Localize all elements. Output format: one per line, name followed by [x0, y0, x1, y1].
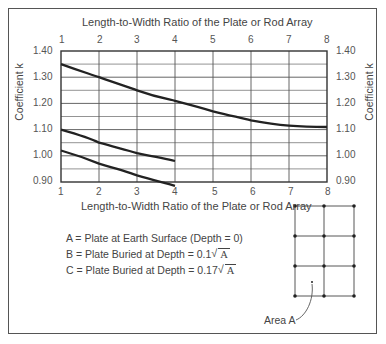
bottom-x-tick: 3 [134, 186, 140, 197]
bottom-x-tick: 2 [96, 186, 102, 197]
sqrt-symbol: A [211, 248, 230, 260]
curve-a [61, 64, 327, 127]
legend-c-text: C = Plate Buried at Depth = 0.17 [66, 264, 218, 276]
bottom-x-tick: 4 [172, 186, 178, 197]
bottom-axis-title: Length-to-Width Ratio of the Plate or Ro… [81, 200, 312, 212]
area-pointer [296, 284, 312, 320]
area-a-label: Area A [264, 314, 296, 326]
rod-points [293, 204, 356, 298]
sqrt-symbol: A [218, 264, 237, 276]
bottom-x-tick: 8 [325, 186, 331, 197]
bottom-x-tick: 6 [250, 186, 256, 197]
legend-b: B = Plate Buried at Depth = 0.1A [66, 248, 230, 260]
legend-c-sqrt: A [225, 264, 237, 276]
legend-b-text: B = Plate Buried at Depth = 0.1 [66, 248, 211, 260]
legend-a: A = Plate at Earth Surface (Depth = 0) [66, 232, 243, 244]
bottom-x-tick: 5 [212, 186, 218, 197]
bottom-x-tick: 1 [58, 186, 64, 197]
rod-array-diagram [295, 206, 354, 296]
legend-a-text: A = Plate at Earth Surface (Depth = 0) [66, 232, 243, 244]
legend-c: C = Plate Buried at Depth = 0.17A [66, 264, 236, 276]
bottom-x-tick: 7 [288, 186, 294, 197]
plot-area [0, 0, 386, 344]
minor-gridlines [61, 64, 327, 169]
legend-b-sqrt: A [218, 248, 230, 260]
